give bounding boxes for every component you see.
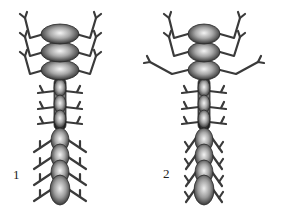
thorax-segment-2 [188,42,220,62]
diagram-canvas [0,0,284,221]
specimen-2 [144,12,264,205]
thorax-segment-1 [188,24,220,44]
panel-label-2: 2 [163,167,170,180]
thorax-segment-3 [41,60,79,80]
thorax-segment-2 [41,42,79,62]
thorax-segment-3 [188,60,220,80]
thorax-segment-1 [41,24,79,44]
specimen-1 [20,12,101,205]
panel-label-1: 1 [13,168,20,181]
